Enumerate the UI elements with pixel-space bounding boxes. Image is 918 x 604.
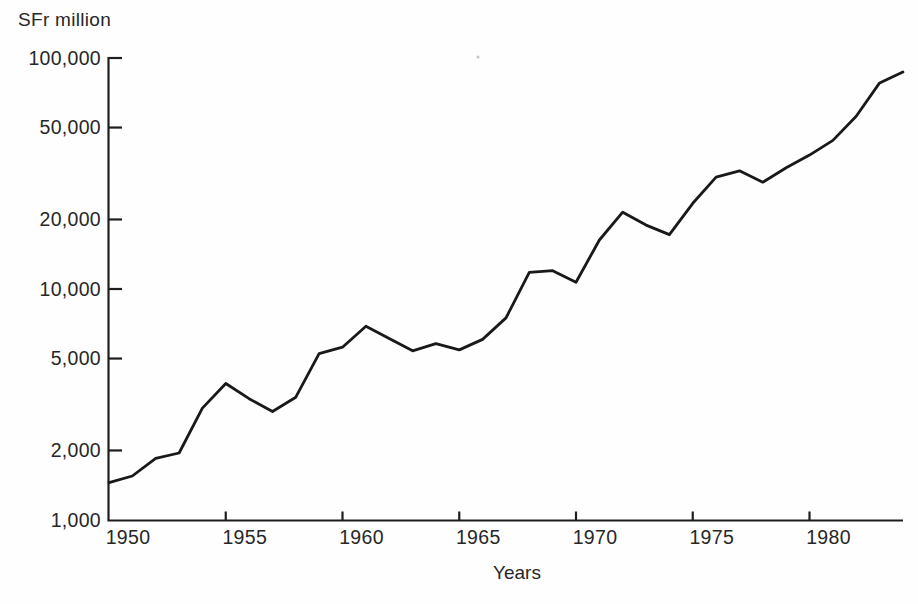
x-tick-label: 1950 [106, 526, 151, 548]
x-tick-label: 1970 [573, 526, 618, 548]
scan-speck [477, 56, 480, 59]
y-tick-label: 10,000 [40, 278, 101, 300]
x-axis-title: Years [457, 562, 577, 584]
line-chart: 1,0002,0005,00010,00020,00050,000100,000… [0, 0, 918, 604]
chart-page: SFr million 1,0002,0005,00010,00020,0005… [0, 0, 918, 604]
x-tick-label: 1960 [339, 526, 384, 548]
y-tick-label: 100,000 [28, 47, 101, 69]
x-tick-label: 1980 [806, 526, 851, 548]
axis-lines [109, 57, 904, 521]
x-tick-label: 1975 [689, 526, 734, 548]
y-tick-label: 1,000 [51, 509, 101, 531]
y-tick-label: 50,000 [40, 116, 101, 138]
y-tick-label: 20,000 [40, 208, 101, 230]
y-tick-label: 5,000 [51, 347, 101, 369]
x-tick-label: 1955 [222, 526, 267, 548]
y-tick-label: 2,000 [51, 439, 101, 461]
x-tick-label: 1965 [456, 526, 501, 548]
data-line [109, 72, 903, 483]
